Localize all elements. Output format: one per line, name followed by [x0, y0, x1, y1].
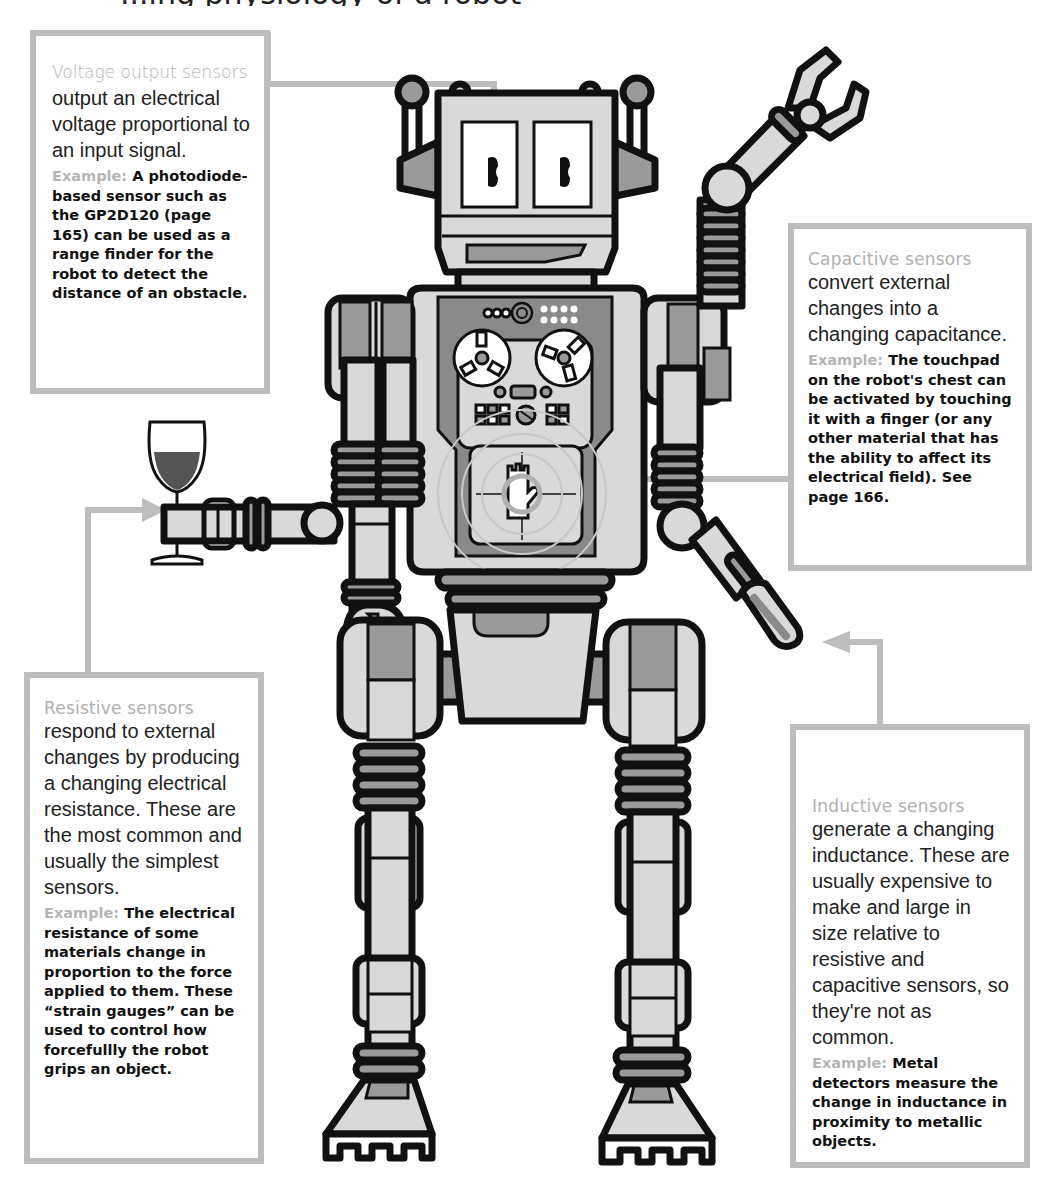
callout-resistive-example-text: The electrical resistance of some materi…	[44, 905, 235, 1077]
callout-inductive-example: Example: Metal detectors measure the cha…	[812, 1054, 1012, 1152]
example-label: Example:	[808, 352, 883, 368]
callout-voltage-body: output an electrical voltage proportiona…	[52, 87, 250, 161]
example-label: Example:	[52, 168, 127, 184]
example-label: Example:	[44, 905, 119, 921]
connector-inductive	[822, 631, 880, 726]
left-foot	[326, 1134, 432, 1158]
callout-resistive-body: respond to external changes by producing…	[44, 718, 246, 900]
right-arm-probe	[654, 368, 800, 646]
left-leg	[326, 620, 440, 1158]
callout-voltage-heading: Voltage output sensors	[52, 62, 247, 82]
connector-resistive	[88, 498, 166, 674]
robot-torso	[410, 288, 644, 606]
callout-capacitive-example-text: The touchpad on the robot's chest can be…	[808, 352, 1012, 505]
callout-capacitive-body: convert external changes into a changing…	[808, 269, 1014, 347]
callout-resistive-heading: Resistive sensors	[44, 698, 246, 718]
callout-capacitive-example: Example: The touchpad on the robot's che…	[808, 351, 1014, 507]
callout-resistive-sensors: Resistive sensors respond to external ch…	[24, 672, 264, 1164]
callout-voltage-example: Example: A photodiode-based sensor such …	[52, 167, 250, 304]
deck-keys	[476, 405, 568, 424]
callout-inductive-heading: Inductive sensors	[812, 796, 1012, 816]
callout-voltage-text: Voltage output sensors output an electri…	[52, 58, 250, 163]
callout-resistive-example: Example: The electrical resistance of so…	[44, 904, 246, 1080]
right-foot	[602, 1138, 712, 1162]
robot-head	[400, 84, 655, 292]
robot-pelvis	[438, 610, 608, 721]
callout-capacitive-sensors: Capacitive sensors convert external chan…	[788, 223, 1032, 571]
callout-inductive-body: generate a changing inductance. These ar…	[812, 816, 1012, 1050]
claw-gripper	[788, 50, 866, 138]
left-arm-coil	[334, 444, 422, 504]
right-leg	[602, 622, 712, 1162]
example-label: Example:	[812, 1055, 887, 1071]
callout-inductive-sensors: Inductive sensors generate a changing in…	[790, 724, 1030, 1168]
callout-voltage-output-sensors: Voltage output sensors output an electri…	[30, 30, 270, 394]
callout-capacitive-heading: Capacitive sensors	[808, 249, 1014, 269]
callout-voltage-example-text: A photodiode-based sensor such as the GP…	[52, 168, 248, 301]
